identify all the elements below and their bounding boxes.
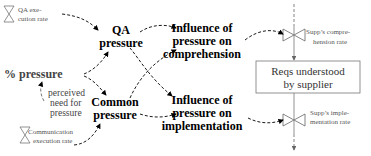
qa-pressure-line2: pressure <box>99 36 143 50</box>
perceived-need-line1: perceived <box>48 88 85 98</box>
qa-pressure-line1: QA <box>112 23 130 37</box>
reqs-stock-line1: Reqs understood <box>271 65 345 77</box>
comm-exec-rate-line1: Communication <box>28 128 74 136</box>
impl-rate-line2: mentation rate <box>310 118 350 126</box>
qa-exec-rate-line1: QA exe- <box>18 6 42 14</box>
arrow-qaexec-to-qapressure <box>62 14 98 30</box>
comm-exec-rate-line2: execution rate <box>33 137 72 145</box>
comp-rate-line1: Supp’s compre- <box>306 28 351 36</box>
perceived-need-line3: pressure <box>50 108 82 118</box>
arrow-pct-to-common <box>84 76 106 95</box>
arrow-inflcomp-to-valve <box>245 31 283 40</box>
perceived-need-line2: need for <box>50 98 82 108</box>
infl-comp-line2: pressure on <box>172 34 232 48</box>
infl-impl-line1: Influence of <box>172 93 234 107</box>
arrow-comm-to-common <box>74 124 100 145</box>
impl-rate-line1: Supp’s imple- <box>310 109 350 117</box>
comp-rate-line2: hension rate <box>313 38 347 46</box>
arrow-common-to-inflimpl <box>140 114 176 117</box>
infl-comp-line1: Influence of <box>172 21 234 35</box>
qa-exec-rate-line2: cution rate <box>18 15 48 23</box>
common-pressure-line2: pressure <box>93 108 137 122</box>
hourglass-icon <box>4 6 14 22</box>
causal-diagram: QA exe- cution rate QA pressure % pressu… <box>0 0 371 156</box>
infl-comp-line3: comprehension <box>163 47 241 61</box>
arrow-perceived-to-pct <box>41 82 44 101</box>
reqs-stock-line2: by supplier <box>283 78 333 90</box>
infl-impl-line2: pressure on <box>172 106 232 120</box>
pct-pressure-label: % pressure <box>4 67 63 81</box>
arrow-pct-to-qapressure <box>84 52 108 74</box>
arrow-inflimpl-to-valve <box>248 118 283 123</box>
infl-impl-line3: implementation <box>162 119 243 133</box>
common-pressure-line1: Common <box>91 95 139 109</box>
